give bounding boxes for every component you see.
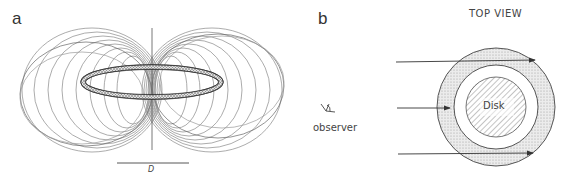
observer-label: observer bbox=[313, 122, 357, 133]
panel-b-label: b bbox=[318, 9, 327, 29]
scale-bar-label: D bbox=[148, 165, 154, 174]
figure-canvas bbox=[0, 0, 570, 184]
top-view-title: TOP VIEW bbox=[469, 8, 522, 19]
eye-icon bbox=[321, 104, 335, 112]
disk-label: Disk bbox=[483, 100, 504, 111]
panel-a-label: a bbox=[12, 9, 21, 29]
